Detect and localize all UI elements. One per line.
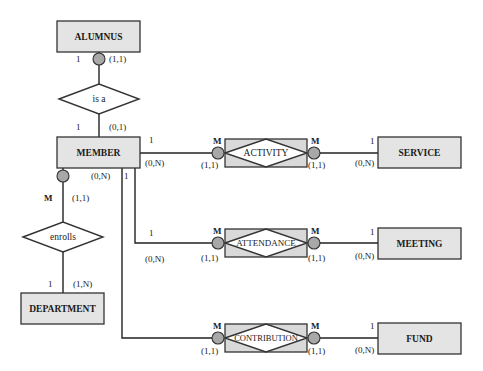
card-service-activity: (0,N) [355,158,374,168]
relationship-is-a-label: is a [93,94,107,104]
conn-member-isa: 1 [76,122,81,132]
card-department-enrolls: (1,N) [73,279,92,289]
conn-member-activity: 1 [149,135,154,145]
card-fund-contribution: (0,N) [355,345,374,355]
relationship-contribution[interactable]: CONTRIBUTION [225,324,307,352]
card-attendance-member-side: (1,1) [201,253,218,263]
conn-contribution-member-side: M [213,321,222,331]
entity-alumnus-label: ALUMNUS [74,32,122,42]
conn-member-contribution: 1 [124,171,129,181]
entity-fund[interactable]: FUND [378,323,461,354]
participation-circle-attendance-left [212,237,224,249]
conn-activity-member-side: M [213,136,222,146]
conn-activity-service-side: M [311,136,320,146]
participation-circle-activity-right [308,147,320,159]
conn-alumnus-isa: 1 [76,54,81,64]
relationship-activity[interactable]: ACTIVITY [225,139,307,167]
participation-circle-attendance-right [308,237,320,249]
entity-department[interactable]: DEPARTMENT [21,293,104,324]
conn-meeting-attendance: 1 [370,227,375,237]
entity-department-label: DEPARTMENT [29,304,96,314]
er-diagram: ALUMNUS MEMBER DEPARTMENT SERVICE MEETIN… [0,0,483,371]
conn-service-activity: 1 [370,136,375,146]
entity-meeting[interactable]: MEETING [378,228,461,259]
relationship-enrolls[interactable]: enrolls [23,222,103,252]
card-member-attendance: (0,N) [145,254,164,264]
relationship-enrolls-label: enrolls [50,232,76,242]
entity-alumnus[interactable]: ALUMNUS [57,21,140,52]
conn-attendance-member-side: M [213,226,222,236]
participation-circle-contribution-left [212,332,224,344]
participation-circle-member-enrolls [57,170,69,182]
card-contribution-fund-side: (1,1) [308,346,325,356]
participation-circle-alumnus [93,53,105,65]
card-attendance-meeting-side: (1,1) [308,253,325,263]
card-meeting-attendance: (0,N) [355,251,374,261]
conn-department-enrolls: 1 [48,279,53,289]
card-member-contribution: (0,N) [91,171,110,181]
entity-fund-label: FUND [406,334,433,344]
conn-attendance-meeting-side: M [311,226,320,236]
card-activity-member-side: (1,1) [201,160,218,170]
card-member-activity: (0,N) [145,158,164,168]
entity-member-label: MEMBER [77,148,121,158]
member-attendance-line [135,168,217,243]
entity-service[interactable]: SERVICE [378,137,461,168]
participation-circle-activity-left [212,147,224,159]
participation-circle-contribution-right [308,332,320,344]
conn-member-attendance: 1 [149,228,154,238]
relationship-attendance-label: ATTENDANCE [236,238,296,248]
conn-member-enrolls: M [44,193,53,203]
card-member-enrolls: (1,1) [72,193,89,203]
relationship-contribution-label: CONTRIBUTION [234,333,298,343]
conn-fund-contribution: 1 [370,321,375,331]
card-alumnus-isa: (1,1) [109,54,126,64]
relationship-activity-label: ACTIVITY [244,148,289,158]
card-member-isa: (0,1) [109,122,126,132]
conn-contribution-fund-side: M [311,321,320,331]
card-activity-service-side: (1,1) [308,160,325,170]
card-contribution-member-side: (1,1) [201,346,218,356]
relationship-attendance[interactable]: ATTENDANCE [225,229,307,257]
entity-member[interactable]: MEMBER [57,137,140,168]
entity-service-label: SERVICE [399,148,441,158]
entity-meeting-label: MEETING [397,239,444,249]
relationship-is-a[interactable]: is a [59,84,139,114]
